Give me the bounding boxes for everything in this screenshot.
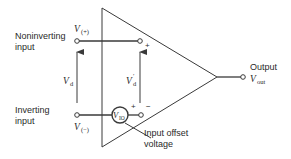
offset-label-2: voltage xyxy=(144,139,173,149)
v-minus-label: V (−) xyxy=(74,122,89,134)
svg-text:V: V xyxy=(250,74,257,84)
vd-prime-label: V d ′ xyxy=(126,72,137,87)
offset-label-1: Input offset xyxy=(144,128,189,138)
svg-text:V: V xyxy=(74,24,81,34)
vout-label: V out xyxy=(250,74,266,85)
plus-sign-bottom: + xyxy=(131,102,136,111)
noninverting-wire xyxy=(75,39,143,44)
internal-plus-terminal xyxy=(138,39,143,44)
svg-text:d: d xyxy=(70,80,74,87)
svg-text:out: out xyxy=(257,78,266,85)
op-amp-triangle xyxy=(102,8,217,147)
output-label: Output xyxy=(250,62,278,72)
inverting-label-1: Inverting xyxy=(15,105,50,115)
inverting-terminal xyxy=(75,113,80,118)
op-amp-diagram: Noninverting input Inverting input V (+)… xyxy=(0,0,291,159)
noninverting-label-2: input xyxy=(15,42,35,52)
plus-sign-top: + xyxy=(145,41,150,50)
noninverting-label-1: Noninverting xyxy=(15,31,66,41)
vd-label: V d xyxy=(63,76,74,87)
output-terminal xyxy=(241,75,246,80)
output-wire xyxy=(217,75,245,80)
svg-text:V: V xyxy=(63,76,70,86)
svg-text:(+): (+) xyxy=(81,28,89,36)
svg-text:d: d xyxy=(133,80,137,87)
v-plus-label: V (+) xyxy=(74,24,89,36)
svg-text:′: ′ xyxy=(133,72,135,79)
svg-text:(−): (−) xyxy=(81,126,89,134)
svg-text:V: V xyxy=(74,122,81,132)
inverting-label-2: input xyxy=(15,116,35,126)
svg-text:IO: IO xyxy=(119,115,125,121)
minus-sign-bottom: − xyxy=(146,102,151,111)
noninverting-terminal xyxy=(75,39,80,44)
svg-text:V: V xyxy=(126,76,133,86)
internal-minus-terminal xyxy=(139,113,144,118)
